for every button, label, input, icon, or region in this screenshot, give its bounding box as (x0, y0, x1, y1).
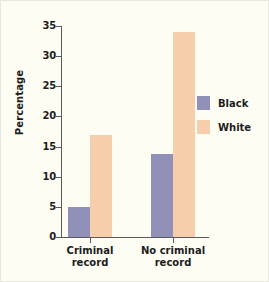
x-axis-group-label-line: Criminal (48, 245, 132, 257)
x-tick-mark (173, 238, 174, 243)
legend-item-white[interactable]: White (197, 115, 251, 139)
y-tick-mark (56, 86, 61, 87)
y-tick-mark (56, 177, 61, 178)
x-axis-group-label-line: record (131, 257, 215, 269)
legend-item-black[interactable]: Black (197, 91, 251, 115)
legend-label-white: White (218, 122, 251, 133)
x-axis-group-label: No criminalrecord (131, 245, 215, 269)
y-axis-title: Percentage (14, 63, 25, 143)
legend-swatch-white (197, 120, 210, 134)
x-axis-line (61, 237, 209, 238)
x-axis-group-label-line: No criminal (131, 245, 215, 257)
y-tick-mark (56, 147, 61, 148)
y-tick-label: 30 (22, 50, 56, 61)
chart-legend: BlackWhite (197, 91, 251, 139)
y-tick-mark (56, 56, 61, 57)
y-tick-label: 0 (22, 231, 56, 242)
bar-white-group-1 (90, 135, 112, 237)
plot-area (62, 26, 202, 237)
legend-label-black: Black (218, 98, 248, 109)
y-tick-mark (56, 26, 61, 27)
y-tick-mark (56, 207, 61, 208)
bar-chart-figure: Percentage 05101520253035 Criminalrecord… (0, 0, 269, 282)
bar-black-group-1 (68, 207, 90, 237)
y-tick-label: 15 (22, 141, 56, 152)
bar-black-group-2 (151, 154, 173, 237)
legend-swatch-black (197, 96, 210, 110)
y-tick-mark (56, 237, 61, 238)
x-axis-group-label-line: record (48, 257, 132, 269)
y-tick-label: 10 (22, 171, 56, 182)
x-axis-group-label: Criminalrecord (48, 245, 132, 269)
y-tick-label: 35 (22, 20, 56, 31)
y-tick-mark (56, 116, 61, 117)
y-tick-label: 5 (22, 201, 56, 212)
bar-white-group-2 (173, 32, 195, 237)
y-tick-label: 25 (22, 80, 56, 91)
x-tick-mark (90, 238, 91, 243)
y-tick-label: 20 (22, 110, 56, 121)
